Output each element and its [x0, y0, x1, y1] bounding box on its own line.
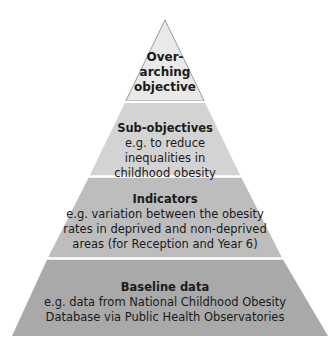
baseline-data-desc-line-2: Database via Public Health Observatories [10, 310, 320, 325]
baseline-data-label: Baseline data e.g. data from National Ch… [10, 280, 320, 325]
indicators-desc-line-2: rates in deprived and non-deprived [20, 222, 310, 237]
overarching-objective-title-line-3: objective [130, 80, 200, 95]
overarching-objective-title-line-2: arching [130, 65, 200, 80]
overarching-objective-title-line-1: Over- [130, 50, 200, 65]
sub-objectives-desc-line-3: childhood obesity [60, 166, 270, 181]
baseline-data-title: Baseline data [10, 280, 320, 295]
sub-objectives-label: Sub-objectives e.g. to reduce inequaliti… [60, 121, 270, 181]
sub-objectives-desc-line-2: inequalities in [60, 151, 270, 166]
baseline-data-desc-line-1: e.g. data from National Childhood Obesit… [10, 295, 320, 310]
indicators-desc-line-3: areas (for Reception and Year 6) [20, 237, 310, 252]
sub-objectives-title: Sub-objectives [60, 121, 270, 136]
indicators-title: Indicators [20, 192, 310, 207]
indicators-label: Indicators e.g. variation between the ob… [20, 192, 310, 252]
overarching-objective-label: Over- arching objective [130, 50, 200, 95]
indicators-desc-line-1: e.g. variation between the obesity [20, 207, 310, 222]
sub-objectives-desc-line-1: e.g. to reduce [60, 136, 270, 151]
